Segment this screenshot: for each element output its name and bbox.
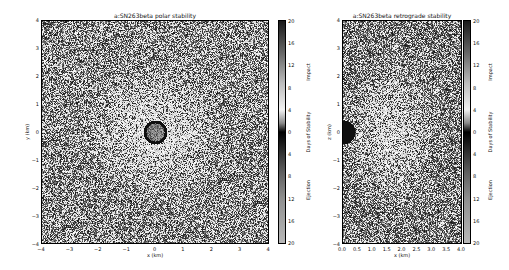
y-tick-label: 2 [36, 73, 39, 79]
left-chart-title: a:SN263beta polar stability [114, 12, 196, 19]
c-tick-label: 4 [288, 107, 291, 113]
x-tick-label: 4.0 [457, 246, 465, 252]
x-tick-label: 0.0 [338, 246, 346, 252]
x-tick-label: −3 [66, 246, 73, 252]
y-tick-label: −1 [32, 157, 39, 163]
c-tick-label: 20 [288, 240, 294, 246]
c-tick-label: 16 [473, 218, 479, 224]
right-colorbar [463, 20, 471, 244]
right-colorbar-ejection-label: Ejection [487, 180, 493, 200]
left-heatmap [41, 20, 269, 244]
right-chart-title: a:SN263beta retrograde stability [353, 12, 452, 19]
x-tick-label: 1 [181, 246, 184, 252]
x-tick-label: 3.5 [442, 246, 450, 252]
c-tick-label: 8 [473, 173, 476, 179]
c-tick-label: 12 [288, 196, 294, 202]
x-tick-label: 0.5 [353, 246, 361, 252]
y-tick-label: 1 [337, 101, 340, 107]
x-tick-label: −1 [122, 246, 129, 252]
c-tick-label: 8 [288, 173, 291, 179]
c-tick-label: 8 [473, 85, 476, 91]
c-tick-label: 12 [473, 62, 479, 68]
y-tick-label: 2 [337, 73, 340, 79]
y-tick-label: −3 [32, 213, 39, 219]
right-colorbar-label: Days of Stability [487, 112, 493, 153]
left-colorbar [278, 20, 286, 244]
y-tick-label: 4 [337, 17, 340, 23]
right-colorbar-impact-label: Impact [487, 63, 493, 80]
x-tick-label: 1.5 [383, 246, 391, 252]
x-tick-label: 4 [266, 246, 269, 252]
y-tick-label: 4 [36, 17, 39, 23]
y-tick-label: −2 [333, 185, 340, 191]
x-tick-label: 1.0 [368, 246, 376, 252]
right-x-axis-label: x (km) [394, 252, 410, 258]
c-tick-label: 4 [473, 151, 476, 157]
c-tick-label: 20 [473, 240, 479, 246]
c-tick-label: 16 [288, 40, 294, 46]
left-colorbar-label: Days of Stability [305, 112, 311, 153]
y-tick-label: 1 [36, 101, 39, 107]
c-tick-label: 12 [288, 62, 294, 68]
y-tick-label: 3 [337, 45, 340, 51]
y-tick-label: −2 [32, 185, 39, 191]
c-tick-label: 16 [288, 218, 294, 224]
right-y-axis-label: z (km) [326, 124, 332, 140]
left-y-axis-label: y (km) [24, 124, 30, 140]
x-tick-label: 3 [238, 246, 241, 252]
c-tick-label: 4 [473, 107, 476, 113]
x-tick-label: 3.0 [427, 246, 435, 252]
y-tick-label: −3 [333, 213, 340, 219]
left-colorbar-ejection-label: Ejection [305, 180, 311, 200]
x-tick-label: −4 [37, 246, 44, 252]
right-heatmap [342, 20, 462, 244]
c-tick-label: 0 [288, 129, 291, 135]
c-tick-label: 20 [473, 18, 479, 24]
x-tick-label: 2 [210, 246, 213, 252]
y-tick-label: −1 [333, 157, 340, 163]
c-tick-label: 8 [288, 85, 291, 91]
y-tick-label: 3 [36, 45, 39, 51]
c-tick-label: 20 [288, 18, 294, 24]
x-tick-label: 2.5 [412, 246, 420, 252]
c-tick-label: 12 [473, 196, 479, 202]
x-tick-label: −2 [94, 246, 101, 252]
y-tick-label: 0 [36, 129, 39, 135]
left-heatmap-canvas [42, 21, 268, 243]
c-tick-label: 16 [473, 40, 479, 46]
left-x-axis-label: x (km) [147, 252, 163, 258]
c-tick-label: 4 [288, 151, 291, 157]
y-tick-label: 0 [337, 129, 340, 135]
c-tick-label: 0 [473, 129, 476, 135]
right-heatmap-canvas [343, 21, 461, 243]
left-colorbar-impact-label: Impact [305, 63, 311, 80]
